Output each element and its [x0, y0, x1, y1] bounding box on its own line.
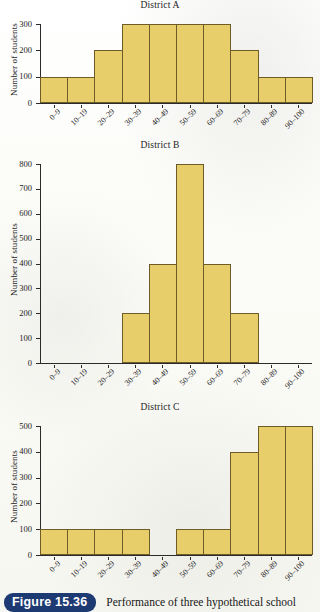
histogram-bar [285, 426, 313, 555]
histogram-bar [122, 529, 150, 555]
figure-caption-text: Performance of three hypothetical school [106, 595, 296, 609]
figure-caption-row: Figure 15.36 Performance of three hypoth… [0, 592, 320, 612]
chart-panel-district-c: District C 0100200300400500Number of stu… [0, 402, 320, 598]
y-tick-mark-district-b-2 [36, 313, 41, 314]
y-tick-mark-district-c-0 [36, 555, 41, 556]
y-tick-mark-district-b-6 [36, 214, 41, 215]
plot-area-district-b: 0100200300400500600700800Number of stude… [0, 151, 320, 403]
histogram-bar [203, 24, 231, 103]
y-tick-mark-district-b-7 [36, 189, 41, 190]
y-tick-mark-district-b-8 [36, 164, 41, 165]
histogram-bar [149, 264, 177, 364]
chart-panel-district-a: District A 0100200300Number of students0… [0, 0, 320, 141]
histogram-bar [230, 452, 258, 555]
y-tick-mark-district-c-5 [36, 426, 41, 427]
plot-area-district-a: 0100200300Number of students0–910–1920–2… [0, 11, 320, 141]
figure-sheet: District A 0100200300Number of students0… [0, 0, 320, 612]
histogram-bar [94, 529, 122, 555]
histogram-bar [122, 24, 150, 103]
histogram-bar [122, 313, 150, 363]
chart-title-district-b: District B [0, 140, 320, 151]
histogram-bar [94, 50, 122, 103]
y-tick-mark-district-c-3 [36, 478, 41, 479]
y-axis-label-district-c: Number of students [9, 420, 19, 553]
histogram-bar [40, 77, 68, 103]
y-tick-mark-district-a-0 [36, 103, 41, 104]
histogram-bar [67, 77, 95, 103]
chart-title-district-c: District C [0, 402, 320, 413]
histogram-bar [176, 24, 204, 103]
histogram-bar [149, 24, 177, 103]
y-tick-mark-district-b-5 [36, 239, 41, 240]
y-tick-mark-district-b-4 [36, 264, 41, 265]
y-tick-mark-district-c-2 [36, 503, 41, 504]
histogram-bar [67, 529, 95, 555]
y-tick-mark-district-b-0 [36, 363, 41, 364]
y-tick-mark-district-b-1 [36, 338, 41, 339]
histogram-bar [285, 77, 313, 103]
y-tick-mark-district-a-2 [36, 50, 41, 51]
histogram-bar [258, 77, 286, 103]
y-tick-mark-district-c-4 [36, 452, 41, 453]
chart-panel-district-b: District B 0100200300400500600700800Numb… [0, 140, 320, 403]
histogram-bar [203, 264, 231, 364]
chart-title-district-a: District A [0, 0, 320, 11]
plot-area-district-c: 0100200300400500Number of students0–910–… [0, 413, 320, 598]
y-tick-mark-district-a-3 [36, 24, 41, 25]
histogram-bar [230, 50, 258, 103]
figure-number-badge: Figure 15.36 [4, 593, 96, 612]
histogram-bar [258, 426, 286, 555]
histogram-bar [176, 164, 204, 363]
histogram-bar [176, 529, 204, 555]
histogram-bar [230, 313, 258, 363]
histogram-bar [203, 529, 231, 555]
histogram-bar [40, 529, 68, 555]
y-tick-mark-district-b-3 [36, 288, 41, 289]
y-axis-label-district-b: Number of students [9, 158, 19, 361]
y-axis-label-district-a: Number of students [9, 18, 19, 101]
